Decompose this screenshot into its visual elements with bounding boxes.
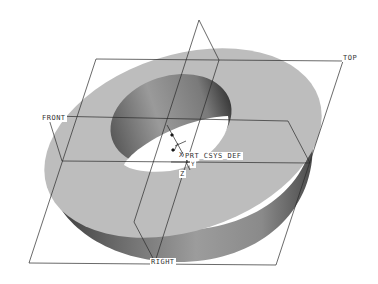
csys-axis-z-label: Z — [179, 170, 186, 178]
datum-label-top[interactable]: TOP — [342, 54, 358, 62]
model-viewport[interactable]: FRONT TOP RIGHT PRT_CSYS_DEF X Y Z — [0, 0, 378, 284]
datum-label-front[interactable]: FRONT — [41, 114, 67, 122]
csys-label[interactable]: PRT_CSYS_DEF — [184, 152, 243, 160]
csys-axis-y-label: Y — [190, 160, 196, 168]
datum-label-right[interactable]: RIGHT — [150, 258, 176, 266]
csys-axis-x-label: X — [178, 151, 185, 159]
